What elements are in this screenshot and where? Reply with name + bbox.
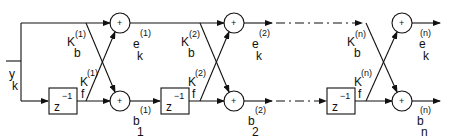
kf-sup: (n) [361,68,372,78]
delay-exp: −1 [340,91,350,101]
b-out-sup: (2) [255,105,266,115]
b-out-sub: n [421,125,428,137]
kb-sup: (1) [75,29,86,39]
e-out-sub: k [256,49,263,63]
kf-sub: f [81,87,85,101]
adder-plus: + [231,18,236,28]
adder-plus: + [399,18,404,28]
delay-base: z [332,100,338,114]
b-out-sub: 2 [252,125,259,137]
e-out-sup: (n) [420,28,431,38]
delay-base: z [54,100,60,114]
kb-sub: b [354,46,361,60]
kf-sup: (1) [87,68,98,78]
kb-sub: b [188,46,195,60]
kf-sup: (2) [195,68,206,78]
delay-base: z [166,100,172,114]
kf-sub: f [192,87,196,101]
kb-sub: b [74,46,81,60]
b-out-sub: 1 [137,125,144,137]
lattice-filter-diagram: + + + + + + y k −1 z −1 z −1 z K (1) b K… [0,0,451,137]
e-out-sup: (1) [140,28,151,38]
adder-plus: + [117,18,122,28]
delay-exp: −1 [174,91,184,101]
b-out-sup: (1) [140,105,151,115]
adder-plus: + [117,96,122,106]
adder-plus: + [399,96,404,106]
e-out-sup: (2) [259,28,270,38]
input-subscript: k [12,79,19,93]
e-out-sub: k [137,49,144,63]
kf-sub: f [358,87,362,101]
kb-sup: (2) [189,29,200,39]
diagram-svg: + + + + + + y k −1 z −1 z −1 z K (1) b K… [0,0,451,137]
kb-sup: (n) [355,29,366,39]
b-out-sup: (n) [420,105,431,115]
delay-exp: −1 [62,91,72,101]
e-out-sub: k [423,49,430,63]
adder-plus: + [231,96,236,106]
